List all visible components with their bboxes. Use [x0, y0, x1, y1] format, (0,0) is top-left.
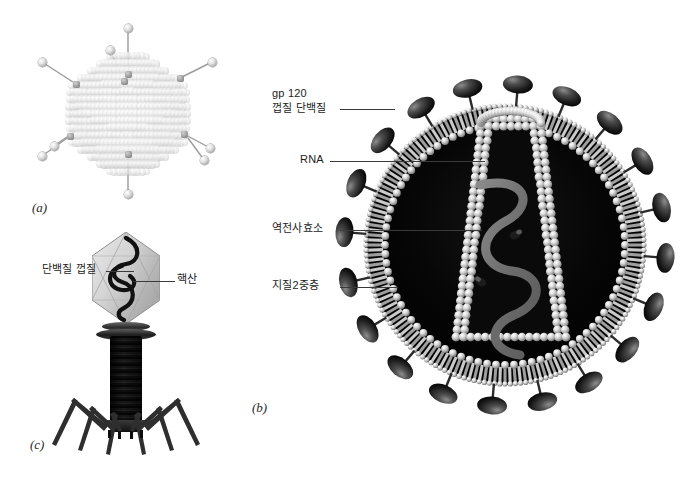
- phospholipid-head: [433, 363, 438, 368]
- capsid-protein: [467, 202, 476, 211]
- penton-base: [177, 75, 184, 82]
- capsid-protein: [536, 180, 545, 189]
- phospholipid-head: [611, 156, 616, 161]
- phospholipid-head: [628, 182, 633, 187]
- penton-base: [73, 81, 80, 88]
- penton-base: [121, 78, 128, 85]
- capsid-protein: [457, 289, 466, 298]
- phospholipid-head: [437, 120, 442, 125]
- phospholipid-head: [393, 293, 401, 301]
- phospholipid-head: [487, 381, 492, 386]
- phospholipid-head: [364, 253, 369, 258]
- fiber-knob: [124, 190, 133, 199]
- phospholipid-head: [614, 325, 619, 330]
- capsid-protein: [525, 333, 534, 342]
- phospholipid-head: [368, 278, 373, 283]
- phospholipid-head: [381, 241, 389, 249]
- phospholipid-head: [630, 187, 635, 192]
- phospholipid-head: [461, 110, 466, 115]
- phospholipid-head: [368, 206, 373, 211]
- capsid-protein: [492, 122, 501, 131]
- phospholipid-head: [424, 357, 429, 362]
- phospholipid-head: [426, 335, 434, 343]
- adenovirus-illustration: [28, 26, 228, 201]
- leader-lipid-bilayer: [340, 287, 398, 288]
- capsid-protein: [562, 333, 571, 342]
- capsid-protein: [475, 202, 484, 211]
- phospholipid-head: [618, 268, 626, 276]
- phospholipid-head: [641, 237, 646, 242]
- capsid-protein: [547, 333, 556, 342]
- phospholipid-head: [385, 168, 390, 173]
- capsid-protein: [472, 231, 481, 240]
- label-lipid-bilayer: 지질2중층: [272, 278, 319, 292]
- phospholipid-head: [482, 380, 487, 385]
- capsid-protein: [541, 158, 550, 167]
- phospholipid-head: [466, 356, 474, 364]
- capsid-protein: [484, 129, 493, 138]
- phospholipid-head: [510, 361, 518, 369]
- capsid-protein: [465, 224, 474, 233]
- phospholipid-head: [457, 353, 465, 361]
- capsid-protein: [550, 238, 559, 247]
- hiv-virion-graphic: [330, 35, 680, 455]
- phospholipid-head: [492, 361, 500, 369]
- phospholipid-head: [452, 113, 457, 118]
- phospholipid-head: [518, 381, 523, 386]
- capsid-protein: [535, 173, 544, 182]
- phospholipid-head: [428, 360, 433, 365]
- capsid-protein: [458, 282, 467, 291]
- phospholipid-head: [380, 177, 385, 182]
- phospholipid-head: [380, 307, 385, 312]
- phospholipid-head: [513, 381, 518, 386]
- capsid-protein: [464, 296, 473, 305]
- phospholipid-head: [641, 242, 646, 247]
- phospholipid-head: [528, 379, 533, 384]
- phospholipid-head: [618, 214, 626, 222]
- phospholipid-head: [543, 110, 548, 115]
- capsid-protein: [514, 122, 523, 131]
- phospholipid-head: [569, 340, 577, 348]
- phospholipid-head: [381, 250, 389, 258]
- leader-nucleic-acid: [133, 281, 175, 282]
- phospholipid-head: [561, 137, 569, 145]
- phospholipid-head: [413, 323, 421, 331]
- phospholipid-head: [583, 153, 591, 161]
- phospholipid-head: [466, 126, 474, 134]
- adenovirus-capsid: [28, 26, 228, 201]
- phospholipid-head: [487, 104, 492, 109]
- phospholipid-head: [616, 277, 624, 285]
- phospholipid-head: [397, 181, 405, 189]
- capsid-protein: [466, 216, 475, 225]
- phospholipid-head: [589, 160, 597, 168]
- label-gp120-line1: gp 120: [272, 86, 326, 101]
- capsid-protein: [468, 195, 477, 204]
- capsomer: [152, 160, 160, 168]
- fiber-knob: [38, 152, 47, 161]
- phospholipid-head: [611, 329, 616, 334]
- phospholipid-head: [384, 268, 392, 276]
- phospholipid-head: [386, 206, 394, 214]
- phospholipid-head: [538, 377, 543, 382]
- phospholipid-head: [563, 117, 568, 122]
- phospholipid-head: [441, 137, 449, 145]
- capsid-protein: [465, 289, 474, 298]
- phospholipid-head: [637, 206, 642, 211]
- capsid-protein: [465, 282, 474, 291]
- phospholipid-head: [538, 108, 543, 113]
- gp120-spike: [476, 395, 507, 415]
- phospholipid-head: [609, 189, 617, 197]
- phospholipid-head: [472, 378, 477, 383]
- capsid-protein: [540, 151, 549, 160]
- phospholipid-head: [613, 197, 621, 205]
- gp120-spike: [342, 166, 370, 201]
- phospholipid-head: [634, 197, 639, 202]
- phospholipid-head: [393, 189, 401, 197]
- phospholipid-head: [371, 197, 376, 202]
- phospholipid-head: [600, 174, 608, 182]
- capsid-protein: [460, 267, 469, 276]
- phospholipid-head: [583, 329, 591, 337]
- phospholipid-head: [442, 368, 447, 373]
- gp120-spike: [404, 92, 439, 123]
- phospholipid-head: [382, 312, 387, 317]
